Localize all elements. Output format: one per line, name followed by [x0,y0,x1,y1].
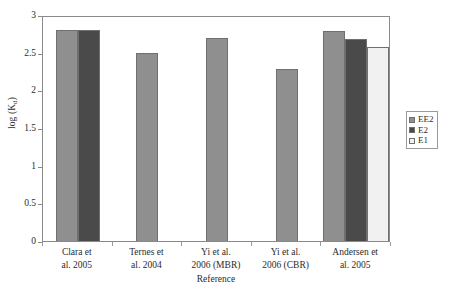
x-label-line-1: Yi et al. [271,247,301,257]
x-axis-title: Reference [42,274,390,284]
bar-group [276,17,298,241]
legend-swatch-icon [409,138,415,144]
x-label-line-1: Yi et al. [201,247,231,257]
bar-e2[interactable] [345,39,367,241]
legend-item-e2[interactable]: E2 [409,125,434,135]
bar-group [136,17,158,241]
legend-label: EE2 [418,115,434,124]
x-axis-category-labels: Clara etal. 2005Ternes etal. 2004Yi et a… [42,246,390,276]
legend-swatch-icon [409,127,415,133]
bar-group [206,17,228,241]
legend-item-e1[interactable]: E1 [409,136,434,146]
bar-chart: log (Kd) 00.511.522.53 Clara etal. 2005T… [0,0,455,293]
bar-ee2[interactable] [56,30,78,241]
x-label-line-2: 2006 (CBR) [251,259,321,272]
bar-e1[interactable] [367,47,389,241]
bar-ee2[interactable] [136,53,158,241]
legend-label: E2 [418,126,428,135]
x-axis-category-label: Clara etal. 2005 [42,246,112,271]
plot-area [42,16,390,242]
x-label-line-2: 2006 (MBR) [181,259,251,272]
legend-swatch-icon [409,117,415,123]
y-axis-tick-label: 0.5 [10,199,36,208]
y-axis-tick-label: 1.5 [10,124,36,133]
x-axis-category-label: Yi et al.2006 (CBR) [251,246,321,271]
y-axis-tick-label: 2 [10,86,36,95]
x-label-line-2: al. 2005 [320,259,390,272]
x-label-line-2: al. 2005 [42,259,112,272]
x-axis-tick-mark [390,242,391,246]
x-axis-category-label: Andersen etal. 2005 [320,246,390,271]
x-label-line-1: Ternes et [129,247,163,257]
bar-group [323,17,389,241]
chart-legend: EE2E2E1 [406,111,438,149]
bar-e2[interactable] [78,30,100,241]
x-label-line-1: Clara et [62,247,92,257]
x-label-line-2: al. 2004 [112,259,182,272]
bar-ee2[interactable] [276,69,298,242]
y-axis-tick-label: 2.5 [10,49,36,58]
bar-ee2[interactable] [323,31,345,241]
y-axis-tick-label: 3 [10,11,36,20]
y-axis-tick-label: 0 [10,237,36,246]
y-axis-tick-labels: 00.511.522.53 [8,0,36,293]
bar-group [56,17,100,241]
x-axis-category-label: Yi et al.2006 (MBR) [181,246,251,271]
x-axis-category-label: Ternes etal. 2004 [112,246,182,271]
bars-layer [43,17,389,241]
bar-ee2[interactable] [206,38,228,241]
x-label-line-1: Andersen et [332,247,378,257]
y-axis-tick-label: 1 [10,162,36,171]
legend-label: E1 [418,136,428,145]
legend-item-ee2[interactable]: EE2 [409,115,434,125]
